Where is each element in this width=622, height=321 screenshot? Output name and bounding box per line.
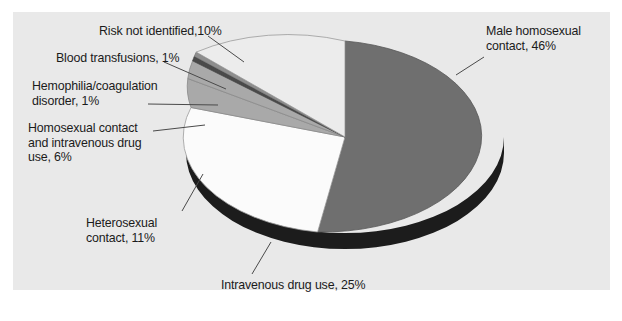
- callout-label-homosexual-and-iv-drug-use: Homosexual contact and intravenous drug …: [28, 121, 183, 165]
- leader-line-male-homosexual-contact: [456, 57, 484, 75]
- leader-line-intravenous-drug-use: [252, 242, 271, 274]
- callout-label-intravenous-drug-use: Intravenous drug use, 25%: [221, 278, 451, 293]
- callout-label-risk-not-identified: Risk not identified,10%: [99, 24, 289, 39]
- callout-label-hemophilia-coagulation-disorder: Hemophilia/coagulation disorder, 1%: [32, 79, 192, 108]
- callout-label-male-homosexual-contact: Male homosexual contact, 46%: [486, 24, 616, 53]
- callout-label-heterosexual-contact: Heterosexual contact, 11%: [86, 216, 216, 245]
- pie-chart-figure: Risk not identified,10% Blood transfusio…: [0, 0, 622, 321]
- callout-label-blood-transfusions: Blood transfusions, 1%: [56, 51, 246, 66]
